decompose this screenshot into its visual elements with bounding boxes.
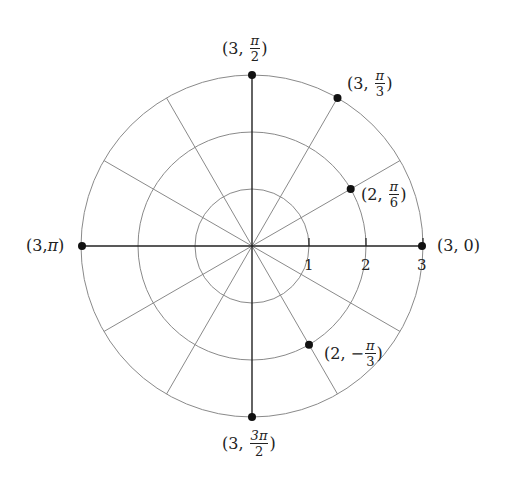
fraction: π2 [250, 34, 261, 63]
label-3-pi2: (3, π2 ) [222, 34, 267, 63]
tick-label-1: 1 [304, 256, 314, 274]
tick-label-2: 2 [361, 256, 371, 274]
label-text: (3, [222, 41, 244, 57]
axis-ticks [309, 238, 423, 246]
polar-grid [0, 0, 508, 478]
fraction: π3 [365, 339, 376, 368]
point-3-3pi2 [248, 413, 256, 421]
fraction: π6 [389, 180, 400, 209]
point-3-pi3 [334, 94, 342, 102]
point-2-neg-pi3 [305, 341, 313, 349]
label-2-pi6: (2, π6 ) [361, 180, 406, 209]
label-3-pi: (3, π) [26, 238, 64, 254]
point-3-pi2 [248, 71, 256, 79]
fraction: π3 [375, 69, 386, 98]
label-3-0: (3, 0) [437, 238, 480, 254]
point-3-0 [418, 242, 426, 250]
fraction: 3π2 [250, 429, 269, 458]
tick-label-3: 3 [417, 256, 427, 274]
label-3-pi3: (3, π3 ) [347, 69, 392, 98]
label-2-neg-pi3: (2, − π3 ) [324, 339, 383, 368]
point-2-pi6 [347, 185, 355, 193]
label-3-3pi2: (3, 3π2 ) [222, 429, 276, 458]
point-3-pi [78, 242, 86, 250]
